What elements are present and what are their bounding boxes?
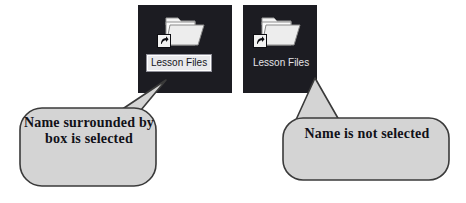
icon-label-selected[interactable]: Lesson Files — [147, 55, 211, 71]
callout-bubble-unselected: Name is not selected — [281, 82, 453, 188]
desktop-panel-unselected: Lesson Files — [243, 5, 317, 93]
callout-bubble-selected: Name surrounded by box is selected — [14, 82, 164, 192]
icon-label-unselected[interactable]: Lesson Files — [249, 55, 313, 71]
desktop-panel-selected: Lesson Files — [138, 5, 232, 93]
callout-text-selected: Name surrounded by box is selected — [22, 115, 156, 147]
figure-canvas: Lesson Files Lesson Files Name su — [0, 0, 466, 203]
shortcut-arrow-icon — [253, 34, 267, 48]
shortcut-arrow-icon — [157, 34, 171, 48]
callout-text-unselected: Name is not selected — [295, 126, 439, 142]
